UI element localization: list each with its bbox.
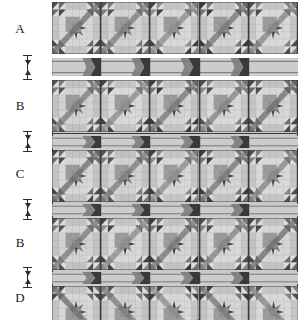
- quilt-block: [150, 150, 199, 202]
- sashing-segment: [200, 272, 249, 284]
- sashing-segment: [200, 204, 249, 216]
- quilt-block: [150, 2, 199, 54]
- sashing-segment: [52, 58, 101, 76]
- sashing-segment: [52, 272, 101, 284]
- row-label-b-second: B: [9, 236, 31, 250]
- quilt-block: [200, 150, 249, 202]
- quilt-canvas: [52, 2, 298, 320]
- sashing-segment: [101, 204, 150, 216]
- sashing-segment: [200, 136, 249, 148]
- quilt-block: [200, 286, 249, 320]
- sashing-segment: [150, 272, 199, 284]
- dimension-cap-top: [23, 55, 32, 56]
- quilt-block: [101, 150, 150, 202]
- quilt-block: [52, 2, 101, 54]
- quilt-block: [101, 2, 150, 54]
- arrow-up-icon: [25, 211, 31, 216]
- quilt-block: [249, 218, 298, 270]
- sashing-segment: [249, 204, 298, 216]
- sashing-segment: [150, 58, 199, 76]
- arrow-down-icon: [25, 135, 31, 140]
- quilt-block: [101, 80, 150, 132]
- dimension-marker-3: [23, 199, 32, 220]
- sashing-segment: [52, 204, 101, 216]
- row-label-a: A: [9, 22, 31, 36]
- dimension-cap-bottom: [23, 219, 32, 220]
- label-gutter: A B C B D: [0, 0, 52, 322]
- quilt-block: [52, 286, 101, 320]
- sashing-segment: [101, 58, 150, 76]
- quilt-block: [249, 150, 298, 202]
- arrow-up-icon: [25, 143, 31, 148]
- sashing-segment: [200, 58, 249, 76]
- row-label-d: D: [9, 291, 31, 305]
- sashing-segment: [101, 136, 150, 148]
- sashing-segment: [249, 136, 298, 148]
- sashing-segment: [101, 272, 150, 284]
- dimension-marker-2: [23, 131, 32, 152]
- sashing-segment: [52, 136, 101, 148]
- dimension-cap-top: [23, 131, 32, 132]
- arrow-up-icon: [25, 279, 31, 284]
- quilt-block: [249, 286, 298, 320]
- row-label-c: C: [9, 167, 31, 181]
- quilt-block: [249, 80, 298, 132]
- quilt-block: [150, 80, 199, 132]
- arrow-up-icon: [25, 70, 31, 75]
- arrow-down-icon: [25, 271, 31, 276]
- quilt-block: [200, 218, 249, 270]
- quilt-block: [52, 80, 101, 132]
- dimension-cap-bottom: [23, 79, 32, 80]
- dimension-marker-1: [23, 55, 32, 80]
- dimension-line: [27, 55, 28, 80]
- quilt-block: [101, 218, 150, 270]
- arrow-down-icon: [25, 203, 31, 208]
- dimension-cap-top: [23, 199, 32, 200]
- quilt-block: [101, 286, 150, 320]
- dimension-cap-bottom: [23, 287, 32, 288]
- dimension-cap-top: [23, 267, 32, 268]
- quilt-block: [200, 2, 249, 54]
- quilt-block: [150, 218, 199, 270]
- sashing-segment: [249, 272, 298, 284]
- quilt-block: [249, 2, 298, 54]
- dimension-cap-bottom: [23, 151, 32, 152]
- sashing-segment: [150, 204, 199, 216]
- quilt-block: [150, 286, 199, 320]
- arrow-down-icon: [25, 60, 31, 65]
- sashing-segment: [150, 136, 199, 148]
- row-label-b-first: B: [9, 99, 31, 113]
- quilt-diagram: A B C B D: [0, 0, 305, 322]
- quilt-block: [52, 218, 101, 270]
- quilt-block: [52, 150, 101, 202]
- sashing-segment: [249, 58, 298, 76]
- quilt-block: [200, 80, 249, 132]
- dimension-marker-4: [23, 267, 32, 288]
